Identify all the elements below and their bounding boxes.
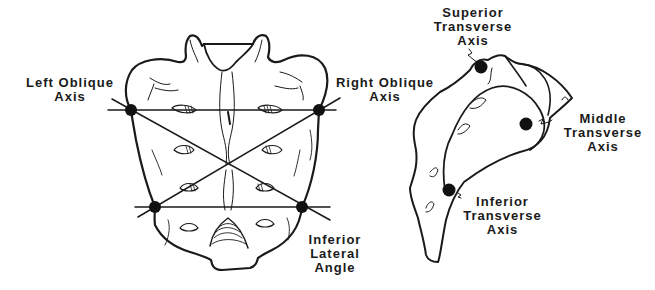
label-left-oblique-axis: Left Oblique Axis (20, 76, 120, 104)
label-line: Lateral (300, 247, 370, 261)
label-line: Angle (300, 261, 370, 275)
label-line: Inferior (300, 233, 370, 247)
label-line: Superior (423, 6, 523, 20)
label-line: Axis (553, 140, 653, 154)
label-right-oblique-axis: Right Oblique Axis (330, 76, 440, 104)
label-line: Axis (330, 90, 440, 104)
label-line: Middle (553, 112, 653, 126)
label-line: Transverse (423, 20, 523, 34)
inferior-left-angle-point (149, 201, 161, 213)
left-oblique-axis (112, 99, 330, 220)
left-oblique-point (125, 104, 137, 116)
dorsal-foramina (172, 105, 282, 231)
label-line: Axis (423, 34, 523, 48)
label-line: Transverse (450, 209, 555, 223)
label-inferior-transverse-axis: Inferior Transverse Axis (450, 195, 555, 237)
sacral-canal (204, 44, 253, 71)
middle-transverse-point (520, 118, 533, 131)
label-line: Axis (450, 223, 555, 237)
label-superior-transverse-axis: Superior Transverse Axis (423, 6, 523, 48)
label-middle-transverse-axis: Middle Transverse Axis (553, 112, 653, 154)
label-inferior-lateral-angle: Inferior Lateral Angle (300, 233, 370, 275)
label-line: Inferior (450, 195, 555, 209)
sacrum-axes-diagram: Left Oblique Axis Right Oblique Axis Inf… (0, 0, 655, 290)
right-oblique-axis (138, 98, 340, 217)
label-line: Axis (20, 90, 120, 104)
auricular-surface (444, 86, 545, 190)
label-line: Right Oblique (330, 76, 440, 90)
label-line: Left Oblique (20, 76, 120, 90)
superior-transverse-point (475, 61, 488, 74)
inferior-lateral-angle-point (296, 201, 308, 213)
label-line: Transverse (553, 126, 653, 140)
right-oblique-point (313, 104, 325, 116)
axis-points (125, 104, 325, 213)
